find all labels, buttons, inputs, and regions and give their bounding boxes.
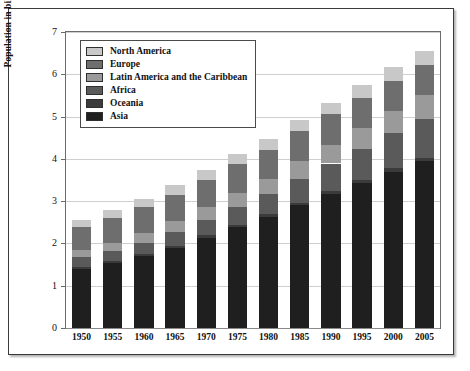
y-tick-label: 6 (35, 69, 57, 79)
bar-segment[interactable] (352, 128, 371, 148)
legend-item[interactable]: Oceania (86, 97, 247, 110)
bar-segment[interactable] (415, 51, 434, 65)
legend-item[interactable]: Asia (86, 110, 247, 123)
bar-segment[interactable] (197, 170, 216, 180)
bar-segment[interactable] (321, 103, 340, 115)
bar-stack[interactable] (352, 32, 371, 328)
bar-segment[interactable] (290, 161, 309, 179)
legend-item-label: Oceania (110, 99, 143, 109)
bar-stack[interactable] (415, 32, 434, 328)
bar-segment[interactable] (72, 220, 91, 227)
bar-segment[interactable] (103, 243, 122, 251)
bar-segment[interactable] (352, 85, 371, 98)
bar-segment[interactable] (134, 233, 153, 242)
bar-segment[interactable] (290, 203, 309, 206)
bar-segment[interactable] (259, 150, 278, 179)
plot-frame: North AmericaEuropeLatin America and the… (65, 31, 441, 329)
legend-swatch-icon (86, 86, 103, 95)
bar-segment[interactable] (259, 194, 278, 214)
bar-segment[interactable] (290, 179, 309, 203)
bar-segment[interactable] (415, 158, 434, 161)
bar-segment[interactable] (415, 95, 434, 119)
legend-item[interactable]: Africa (86, 84, 247, 97)
bar-segment[interactable] (165, 221, 184, 232)
bar-segment[interactable] (197, 180, 216, 208)
bar-segment[interactable] (228, 164, 247, 193)
bar-segment[interactable] (321, 145, 340, 164)
bar-segment[interactable] (228, 193, 247, 207)
bar-segment[interactable] (72, 227, 91, 250)
x-tick-label: 1950 (66, 332, 97, 342)
legend-item-label: Asia (110, 112, 128, 122)
bar-segment[interactable] (384, 168, 403, 171)
bar-segment[interactable] (197, 238, 216, 328)
bar-segment[interactable] (259, 214, 278, 217)
bar-segment[interactable] (134, 256, 153, 328)
bar-segment[interactable] (197, 220, 216, 236)
bar-segment[interactable] (321, 114, 340, 144)
y-tick-label: 4 (35, 154, 57, 164)
bar-segment[interactable] (321, 194, 340, 328)
bar-segment[interactable] (290, 120, 309, 131)
x-tick-label: 1970 (191, 332, 222, 342)
bar-segment[interactable] (259, 217, 278, 328)
bar-segment[interactable] (103, 261, 122, 263)
bar-segment[interactable] (134, 243, 153, 255)
bar-segment[interactable] (415, 65, 434, 96)
x-tick-label: 1975 (222, 332, 253, 342)
bar-segment[interactable] (290, 131, 309, 161)
bar-stack[interactable] (321, 32, 340, 328)
bar-segment[interactable] (134, 207, 153, 233)
bar-segment[interactable] (384, 81, 403, 112)
x-tick-label: 1995 (347, 332, 378, 342)
x-tick-label: 1980 (253, 332, 284, 342)
legend-item-label: North America (110, 47, 171, 57)
bar-segment[interactable] (321, 191, 340, 194)
bar-segment[interactable] (259, 179, 278, 194)
legend-item-label: Africa (110, 86, 136, 96)
bar-segment[interactable] (197, 235, 216, 237)
bar-segment[interactable] (384, 172, 403, 328)
bar-segment[interactable] (228, 154, 247, 164)
bar-segment[interactable] (228, 207, 247, 225)
bar-segment[interactable] (103, 251, 122, 262)
bar-segment[interactable] (384, 111, 403, 133)
bar-segment[interactable] (72, 250, 91, 257)
bar-segment[interactable] (321, 164, 340, 191)
bar-segment[interactable] (72, 257, 91, 267)
bar-segment[interactable] (197, 207, 216, 219)
bar-segment[interactable] (103, 263, 122, 328)
bar-segment[interactable] (103, 210, 122, 218)
bar-stack[interactable] (384, 32, 403, 328)
legend-item[interactable]: Europe (86, 58, 247, 71)
bar-segment[interactable] (415, 161, 434, 328)
bar-segment[interactable] (352, 183, 371, 328)
legend-item[interactable]: North America (86, 45, 247, 58)
bar-segment[interactable] (165, 195, 184, 222)
x-tick-label: 1990 (315, 332, 346, 342)
bar-segment[interactable] (103, 218, 122, 243)
bar-segment[interactable] (352, 149, 371, 180)
bar-stack[interactable] (290, 32, 309, 328)
bar-segment[interactable] (290, 205, 309, 328)
bar-segment[interactable] (72, 267, 91, 269)
bar-segment[interactable] (134, 199, 153, 207)
bar-segment[interactable] (134, 254, 153, 256)
bar-segment[interactable] (384, 67, 403, 81)
bar-segment[interactable] (259, 139, 278, 150)
bar-segment[interactable] (228, 227, 247, 328)
legend-item[interactable]: Latin America and the Caribbean (86, 71, 247, 84)
y-tick-label: 7 (35, 27, 57, 37)
y-tick-label: 5 (35, 112, 57, 122)
bar-segment[interactable] (165, 246, 184, 248)
bar-stack[interactable] (259, 32, 278, 328)
bar-segment[interactable] (72, 269, 91, 328)
bar-segment[interactable] (165, 232, 184, 246)
bar-segment[interactable] (384, 133, 403, 168)
bar-segment[interactable] (352, 180, 371, 183)
bar-segment[interactable] (165, 248, 184, 328)
bar-segment[interactable] (415, 119, 434, 158)
bar-segment[interactable] (352, 98, 371, 129)
bar-segment[interactable] (228, 225, 247, 228)
bar-segment[interactable] (165, 185, 184, 194)
